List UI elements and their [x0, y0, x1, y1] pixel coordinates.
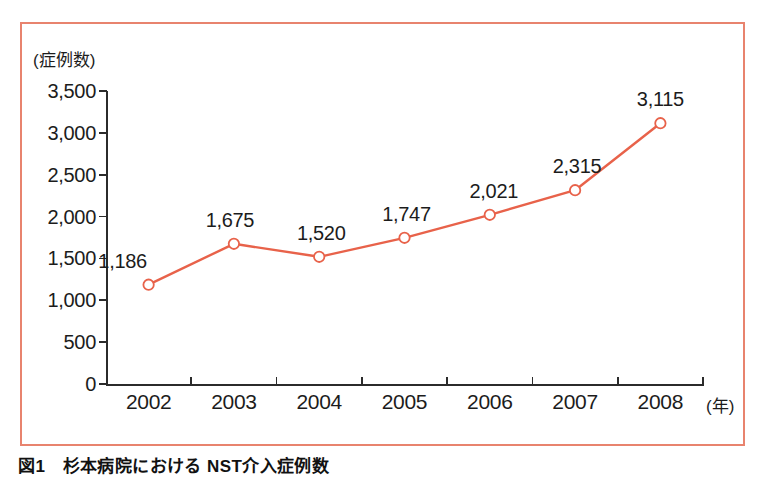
figure-caption: 図1 杉本病院における NST介入症例数	[18, 452, 329, 477]
figure-frame	[20, 22, 745, 446]
